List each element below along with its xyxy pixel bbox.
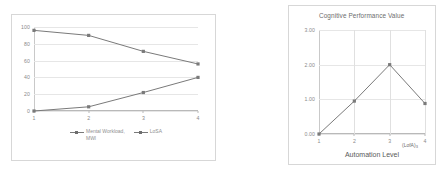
y-gridline	[319, 134, 425, 135]
x-axis-tick-label: 4	[424, 138, 427, 144]
figure-container: 0204060801001234 Mental Workload, MWl Lo…	[0, 0, 447, 173]
y-axis-tick-label: 100	[21, 24, 34, 30]
legend-item-losa[interactable]: LoSA	[134, 128, 162, 136]
x-axis-tick-label: 3	[388, 138, 391, 144]
data-point-marker	[196, 62, 199, 65]
x-axis-tick-mark	[143, 111, 144, 113]
y-axis-tick-label: 40	[24, 74, 34, 80]
x-axis-tick-mark	[425, 134, 426, 136]
x-axis-tick-mark	[354, 134, 355, 136]
data-point-marker	[87, 105, 90, 108]
series-line	[34, 77, 198, 111]
x-axis-tick-label: 4	[197, 115, 200, 121]
data-point-marker	[32, 109, 35, 112]
chart-panel-cognitive-performance: Cognitive Performance Value 0.001.002.00…	[224, 0, 447, 173]
x-axis-tick-label: 3	[142, 115, 145, 121]
series-layer	[319, 30, 425, 134]
x-axis-label-right: Automation Level	[319, 151, 425, 158]
y-axis-tick-label: 2.00	[305, 62, 320, 68]
legend-item-mental-workload[interactable]: Mental Workload, MWl	[70, 128, 125, 141]
data-point-marker	[142, 50, 145, 53]
x-gridline	[425, 30, 426, 134]
x-axis-tick-label: 1	[33, 115, 36, 121]
legend-left: Mental Workload, MWl LoSA	[34, 128, 198, 141]
series-line	[319, 65, 425, 134]
x-axis-note-text: (LofA)	[402, 142, 416, 148]
data-point-marker	[142, 91, 145, 94]
y-axis-tick-label: 1.00	[305, 96, 320, 102]
data-point-marker	[196, 76, 199, 79]
legend-line-marker-icon	[70, 129, 84, 136]
x-axis-tick-mark	[88, 111, 89, 113]
data-point-marker	[353, 99, 356, 102]
series-line	[34, 30, 198, 64]
data-point-marker	[32, 29, 35, 32]
legend-label-mental-workload: Mental Workload, MWl	[86, 128, 125, 141]
y-gridline	[34, 111, 198, 112]
legend-line-marker-icon	[134, 129, 148, 136]
plot-area-right: 0.001.002.003.001234	[319, 30, 425, 134]
y-axis-tick-label: 20	[24, 91, 34, 97]
y-axis-tick-label: 80	[24, 41, 34, 47]
x-axis-label-note: (LofA)3	[402, 142, 418, 149]
data-point-marker	[317, 132, 320, 135]
y-axis-tick-label: 3.00	[305, 27, 320, 33]
plot-area-left: 0204060801001234	[34, 27, 198, 111]
series-layer	[34, 27, 198, 111]
data-point-marker	[388, 63, 391, 66]
x-axis-tick-label: 2	[87, 115, 90, 121]
data-point-marker	[87, 34, 90, 37]
chart-title-right: Cognitive Performance Value	[319, 12, 404, 19]
x-axis-tick-label: 1	[318, 138, 321, 144]
x-axis-note-subscript: 3	[416, 144, 418, 149]
legend-label-losa: LoSA	[150, 128, 162, 135]
data-point-marker	[423, 102, 426, 105]
y-axis-tick-label: 0.00	[305, 131, 320, 137]
x-axis-tick-mark	[389, 134, 390, 136]
chart-panel-mental-workload: 0204060801001234 Mental Workload, MWl Lo…	[0, 0, 224, 173]
y-axis-tick-label: 60	[24, 58, 34, 64]
x-axis-tick-mark	[198, 111, 199, 113]
x-axis-tick-label: 2	[353, 138, 356, 144]
